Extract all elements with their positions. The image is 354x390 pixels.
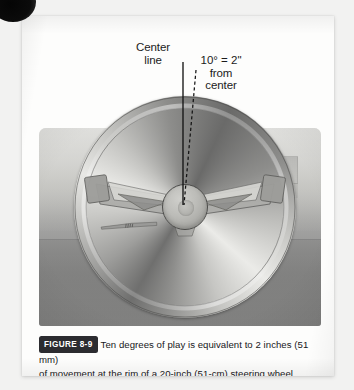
center-line-label-line1: Center bbox=[125, 41, 181, 54]
figure-number-badge: FIGURE 8-9 bbox=[39, 336, 98, 353]
turn-signal-lever bbox=[82, 220, 178, 232]
steering-wheel-hub-center bbox=[178, 200, 194, 216]
steering-wheel bbox=[74, 96, 296, 318]
center-line-label-line2: line bbox=[125, 54, 181, 67]
figure-card: Center line 10° = 2" from center FIGURE … bbox=[22, 16, 334, 376]
offset-angle-label-line1: 10° = 2" bbox=[184, 54, 258, 67]
annotation-labels: Center line 10° = 2" from center bbox=[22, 16, 334, 102]
offset-angle-label-line3: center bbox=[184, 79, 258, 92]
steering-wheel-hub bbox=[162, 184, 208, 230]
figure-caption-line2: of movement at the rim of a 20-inch (51-… bbox=[39, 367, 321, 376]
offset-angle-label: 10° = 2" from center bbox=[184, 54, 258, 92]
center-line-label: Center line bbox=[125, 41, 181, 66]
offset-angle-label-line2: from bbox=[184, 67, 258, 80]
figure-caption: FIGURE 8-9Ten degrees of play is equival… bbox=[39, 336, 321, 376]
